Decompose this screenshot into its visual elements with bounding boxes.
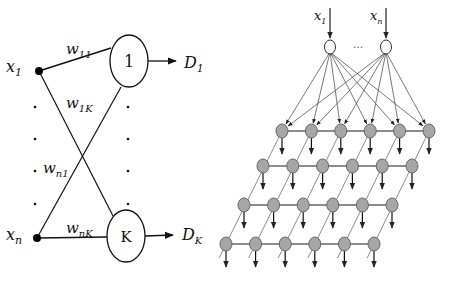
vertical-ellipsis-inputs	[34, 106, 37, 206]
som-grid-node	[406, 159, 418, 173]
som-grid-node	[317, 159, 329, 173]
input-to-node-connection	[330, 52, 423, 126]
input-to-node-connection	[330, 52, 340, 123]
som-grid-node	[305, 124, 317, 138]
som-grid-node	[327, 198, 339, 212]
neuron-1-label: 1	[124, 52, 134, 71]
weight-label-wnK: wnK	[66, 219, 93, 239]
horizontal-ellipsis: ...	[353, 38, 364, 51]
som-grid-node	[423, 124, 435, 138]
som-grid-node	[268, 198, 280, 212]
som-grid-node	[335, 124, 347, 138]
som-grid-node	[287, 159, 299, 173]
input-to-node-connection	[345, 52, 386, 124]
som-input-node	[325, 40, 336, 54]
som-input-label-xn: xn	[370, 8, 383, 26]
input-to-node-connection	[288, 52, 386, 126]
som-grid-node	[364, 124, 376, 138]
weight-label-wn1: wn1	[43, 159, 69, 179]
som-grid-node	[338, 237, 350, 251]
som-grid-node	[220, 237, 232, 251]
input-to-node-connection	[330, 52, 394, 125]
left-network-diagram: 1 K x1 xn D1 DK w11 w1K wn1 wnK	[6, 35, 204, 262]
vertical-ellipsis-neurons	[127, 106, 130, 206]
som-grid-node	[368, 237, 380, 251]
som-grid-node	[250, 237, 262, 251]
som-grid-node	[394, 124, 406, 138]
input-label-xn: xn	[6, 225, 22, 247]
output-arrow-K	[145, 235, 173, 236]
som-grid-node	[386, 198, 398, 212]
input-to-node-connection	[330, 52, 367, 124]
som-grid-node	[279, 237, 291, 251]
figure: 1 K x1 xn D1 DK w11 w1K wn1 wnK x1xn...	[0, 0, 449, 282]
som-input-node	[381, 40, 392, 54]
input-node-x1	[35, 67, 43, 75]
input-to-node-connection	[313, 52, 330, 123]
weight-label-w1K: w1K	[66, 94, 93, 114]
input-node-xn	[33, 234, 41, 242]
som-grid-node	[309, 237, 321, 251]
input-label-x1: x1	[6, 57, 22, 79]
edge-w1K	[39, 71, 113, 216]
output-label-D1: D1	[183, 53, 204, 75]
som-grid-node	[376, 159, 388, 173]
som-grid-node	[257, 159, 269, 173]
neuron-K-label: K	[120, 228, 132, 246]
edge-wnK	[37, 237, 107, 238]
som-grid-node	[238, 198, 250, 212]
som-grid-node	[356, 198, 368, 212]
weight-label-w11: w11	[66, 40, 92, 60]
output-label-DK: DK	[181, 225, 203, 246]
input-to-node-connection	[286, 52, 330, 124]
som-grid-node	[276, 124, 288, 138]
som-grid-node	[346, 159, 358, 173]
som-input-label-x1: x1	[314, 8, 326, 26]
som-grid-node	[297, 198, 309, 212]
right-som-diagram: x1xn...	[219, 8, 435, 267]
